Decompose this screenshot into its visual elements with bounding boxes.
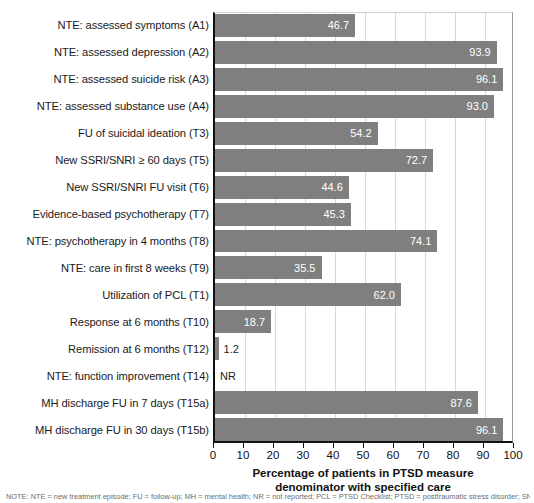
bar-value-label: 46.7 <box>328 19 349 31</box>
bar-track: 93.0 <box>215 93 515 120</box>
bar[interactable] <box>215 230 437 253</box>
bar-value-label: 93.0 <box>467 100 488 112</box>
category-label: Utilization of PCL (T1) <box>102 289 209 301</box>
chart-plot-region: NTE: assessed symptoms (A1)46.7NTE: asse… <box>0 0 534 455</box>
category-label: New SSRI/SNRI ≥ 60 days (T5) <box>55 154 209 166</box>
category-label: NTE: function improvement (T14) <box>47 370 209 382</box>
bar-row: Evidence-based psychotherapy (T7)45.3 <box>0 201 534 228</box>
chart-footnote: NOTE: NTE = new treatment episode; FU = … <box>6 492 530 503</box>
bar-value-label: 1.2 <box>224 343 239 355</box>
category-label: NTE: assessed depression (A2) <box>54 46 209 58</box>
category-label: NTE: assessed substance use (A4) <box>37 100 209 112</box>
bar-row: NTE: care in first 8 weeks (T9)35.5 <box>0 254 534 281</box>
x-tick-mark-60 <box>393 443 394 448</box>
x-tick-label-100: 100 <box>503 449 522 461</box>
bar-row: Response at 6 months (T10)18.7 <box>0 308 534 335</box>
bar-value-label: 96.1 <box>476 424 497 436</box>
x-tick-label-60: 60 <box>387 449 400 461</box>
x-tick-label-20: 20 <box>267 449 280 461</box>
bar-track: 46.7 <box>215 12 515 39</box>
bar-value-label: 74.1 <box>410 235 431 247</box>
bar-row: Utilization of PCL (T1)62.0 <box>0 281 534 308</box>
bar-row: NTE: assessed depression (A2)93.9 <box>0 39 534 66</box>
bar[interactable] <box>215 337 219 360</box>
bar-track: 96.1 <box>215 66 515 93</box>
bar-value-label: 44.6 <box>321 181 342 193</box>
x-tick-label-0: 0 <box>210 449 216 461</box>
x-axis-title-line-1: Percentage of patients in PTSD measure <box>213 466 513 480</box>
bar-row: NTE: assessed suicide risk (A3)96.1 <box>0 66 534 93</box>
bar-track: 72.7 <box>215 147 515 174</box>
bar-row: NTE: assessed symptoms (A1)46.7 <box>0 12 534 39</box>
bar-value-label: 96.1 <box>476 73 497 85</box>
bar-track: 93.9 <box>215 39 515 66</box>
bar[interactable] <box>215 418 503 441</box>
x-tick-mark-70 <box>423 443 424 448</box>
bar-row: FU of suicidal ideation (T3)54.2 <box>0 120 534 147</box>
bar-track: 18.7 <box>215 308 515 335</box>
bar-track: 54.2 <box>215 120 515 147</box>
bar-track: 87.6 <box>215 389 515 416</box>
x-tick-label-70: 70 <box>417 449 430 461</box>
bar-row: New SSRI/SNRI ≥ 60 days (T5)72.7 <box>0 147 534 174</box>
x-tick-label-10: 10 <box>237 449 250 461</box>
category-label: NTE: assessed suicide risk (A3) <box>54 73 209 85</box>
bar-track: 44.6 <box>215 174 515 201</box>
bar-row: MH discharge FU in 30 days (T15b)96.1 <box>0 416 534 443</box>
bar-track: 45.3 <box>215 201 515 228</box>
bar-value-label: 45.3 <box>323 208 344 220</box>
bar-value-label: NR <box>220 370 236 382</box>
bar-value-label: 62.0 <box>374 289 395 301</box>
bar-track: 74.1 <box>215 228 515 255</box>
category-label: FU of suicidal ideation (T3) <box>78 127 209 139</box>
bar[interactable] <box>215 68 503 91</box>
x-tick-mark-100 <box>513 443 514 448</box>
bar-rows-container: NTE: assessed symptoms (A1)46.7NTE: asse… <box>0 12 534 443</box>
bar-value-label: 93.9 <box>469 46 490 58</box>
x-tick-mark-40 <box>333 443 334 448</box>
x-tick-mark-80 <box>453 443 454 448</box>
x-tick-mark-10 <box>243 443 244 448</box>
bar-row: NTE: function improvement (T14)NR <box>0 362 534 389</box>
bar-value-label: 72.7 <box>406 154 427 166</box>
x-tick-mark-50 <box>363 443 364 448</box>
bar-row: Remission at 6 months (T12)1.2 <box>0 335 534 362</box>
x-tick-mark-20 <box>273 443 274 448</box>
ptsd-measures-bar-chart-figure: NTE: assessed symptoms (A1)46.7NTE: asse… <box>0 0 534 503</box>
category-label: New SSRI/SNRI FU visit (T6) <box>66 181 209 193</box>
x-axis-title: Percentage of patients in PTSD measure d… <box>213 466 513 494</box>
bar-row: NTE: assessed substance use (A4)93.0 <box>0 93 534 120</box>
bar-value-label: 87.6 <box>450 397 471 409</box>
category-label: NTE: assessed symptoms (A1) <box>58 19 209 31</box>
bar[interactable] <box>215 95 494 118</box>
bar-value-label: 54.2 <box>350 127 371 139</box>
category-label: MH discharge FU in 30 days (T15b) <box>35 424 209 436</box>
category-label: NTE: psychotherapy in 4 months (T8) <box>27 235 209 247</box>
category-label: Remission at 6 months (T12) <box>68 343 209 355</box>
x-tick-label-50: 50 <box>357 449 370 461</box>
bar[interactable] <box>215 149 433 172</box>
category-label: NTE: care in first 8 weeks (T9) <box>61 262 209 274</box>
bar-track: 1.2 <box>215 335 515 362</box>
bar-row: New SSRI/SNRI FU visit (T6)44.6 <box>0 174 534 201</box>
category-label: Evidence-based psychotherapy (T7) <box>33 208 209 220</box>
bar[interactable] <box>215 41 497 64</box>
x-tick-mark-30 <box>303 443 304 448</box>
bar-track: 62.0 <box>215 281 515 308</box>
bar[interactable] <box>215 391 478 414</box>
bar-track: NR <box>215 362 515 389</box>
x-tick-label-40: 40 <box>327 449 340 461</box>
category-label: MH discharge FU in 7 days (T15a) <box>41 397 209 409</box>
category-label: Response at 6 months (T10) <box>70 316 209 328</box>
x-tick-label-90: 90 <box>477 449 490 461</box>
bar-track: 35.5 <box>215 254 515 281</box>
x-tick-label-80: 80 <box>447 449 460 461</box>
x-tick-mark-0 <box>213 443 214 448</box>
bar-row: MH discharge FU in 7 days (T15a)87.6 <box>0 389 534 416</box>
x-tick-mark-90 <box>483 443 484 448</box>
x-tick-label-30: 30 <box>297 449 310 461</box>
bar-row: NTE: psychotherapy in 4 months (T8)74.1 <box>0 228 534 255</box>
bar-track: 96.1 <box>215 416 515 443</box>
bar-value-label: 18.7 <box>244 316 265 328</box>
bar-value-label: 35.5 <box>294 262 315 274</box>
